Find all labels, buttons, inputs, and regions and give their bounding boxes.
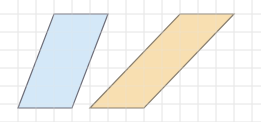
blue-parallelogram bbox=[18, 14, 108, 108]
grid-diagram bbox=[0, 0, 261, 122]
